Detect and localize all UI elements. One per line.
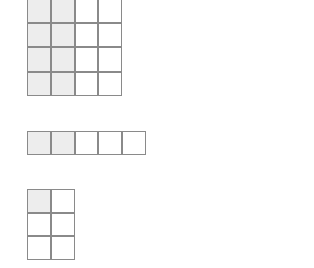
shaded-cell	[27, 131, 51, 155]
empty-cell	[51, 189, 75, 213]
empty-cell	[75, 47, 99, 72]
shaded-cell	[51, 0, 75, 23]
empty-cell	[98, 47, 122, 72]
shaded-cell	[51, 23, 75, 48]
shaded-cell	[27, 189, 51, 213]
shaded-cell	[51, 72, 75, 97]
shaded-cell	[27, 0, 51, 23]
empty-cell	[98, 72, 122, 97]
empty-cell	[27, 236, 51, 260]
empty-cell	[75, 23, 99, 48]
shaded-cell	[51, 47, 75, 72]
empty-cell	[98, 0, 122, 23]
empty-cell	[75, 0, 99, 23]
empty-cell	[75, 72, 99, 97]
shaded-cell	[27, 23, 51, 48]
shaded-cell	[27, 72, 51, 97]
empty-cell	[75, 131, 99, 155]
empty-cell	[122, 131, 146, 155]
shaded-cell	[51, 131, 75, 155]
empty-cell	[98, 23, 122, 48]
fraction-grids-canvas	[0, 0, 314, 268]
shaded-cell	[27, 47, 51, 72]
empty-cell	[51, 213, 75, 237]
empty-cell	[27, 213, 51, 237]
four-by-four-grid	[27, 0, 122, 96]
one-by-five-strip	[27, 131, 146, 155]
three-by-two-grid	[27, 189, 75, 260]
empty-cell	[98, 131, 122, 155]
empty-cell	[51, 236, 75, 260]
